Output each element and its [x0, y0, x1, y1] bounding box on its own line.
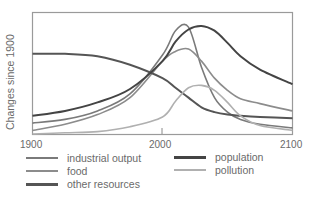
x-tick-label-2000: 2000 [149, 139, 171, 150]
legend-swatch [174, 169, 206, 171]
legend-label: other resources [67, 178, 140, 190]
legend-swatch [26, 170, 58, 172]
legend-label: population [215, 151, 263, 163]
legend-item-industrial-output: industrial output [26, 152, 141, 164]
legend-item-pollution: pollution [174, 164, 254, 176]
legend-label: pollution [215, 164, 254, 176]
legend-swatch [174, 156, 206, 159]
legend-item-food: food [26, 165, 87, 177]
legend-swatch [26, 183, 58, 186]
x-tick-label-2100: 2100 [280, 139, 302, 150]
line-chart [0, 0, 318, 150]
legend-item-other-resources: other resources [26, 178, 140, 190]
legend-label: food [67, 165, 87, 177]
y-axis-label: Changes since 1900 [4, 34, 16, 130]
x-tick-label-1900: 1900 [20, 139, 42, 150]
legend-swatch [26, 157, 58, 159]
legend-item-population: population [174, 151, 263, 163]
legend-label: industrial output [67, 152, 141, 164]
